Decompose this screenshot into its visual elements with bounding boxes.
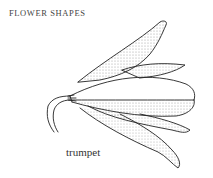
flower-caption: trumpet (66, 146, 100, 158)
trumpet-flower-icon (0, 0, 213, 178)
